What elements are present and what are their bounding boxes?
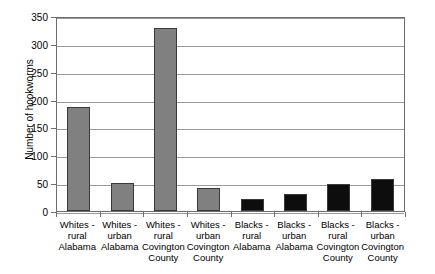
- bar-slot: [100, 18, 143, 211]
- bar-slot: [231, 18, 274, 211]
- x-axis-category-label: Blacks - urban Covington County: [360, 219, 405, 263]
- x-axis-category-label: Whites - urban Covington County: [186, 219, 231, 263]
- y-axis-tick-labels: 350300250200150100500: [0, 0, 56, 274]
- x-axis-tick: [143, 212, 144, 217]
- x-axis-tick: [318, 212, 319, 217]
- bar: [111, 183, 134, 211]
- plot-area: [56, 17, 405, 212]
- bar: [154, 28, 177, 211]
- y-axis-tick-label: 350: [31, 12, 48, 23]
- y-axis-tick-label: 50: [37, 179, 48, 190]
- y-axis-tick-label: 0: [42, 207, 48, 218]
- bar: [327, 184, 350, 211]
- y-axis-tick-label: 150: [31, 123, 48, 134]
- y-axis-tick-label: 250: [31, 67, 48, 78]
- y-axis-tick-label: 300: [31, 39, 48, 50]
- bar: [371, 179, 394, 211]
- bar: [67, 107, 90, 211]
- x-axis-tick: [231, 212, 232, 217]
- bar-chart: Number of hookworms 35030025020015010050…: [0, 0, 435, 274]
- x-axis-category-label: Blacks - rural Alabama: [231, 219, 273, 263]
- x-axis-tick: [100, 212, 101, 217]
- y-axis-tick-label: 100: [31, 151, 48, 162]
- bar-slot: [57, 18, 100, 211]
- y-axis-tick-label: 200: [31, 95, 48, 106]
- x-axis-tick: [405, 212, 406, 217]
- bar-slot: [187, 18, 230, 211]
- x-axis-category-label: Blacks - rural Covington County: [315, 219, 360, 263]
- bar-slot: [317, 18, 360, 211]
- bar-slot: [144, 18, 187, 211]
- x-axis-tick: [361, 212, 362, 217]
- bar-series: [57, 18, 404, 211]
- x-axis-tick: [187, 212, 188, 217]
- bar-slot: [361, 18, 404, 211]
- x-axis-tick: [274, 212, 275, 217]
- x-axis-category-label: Whites - urban Alabama: [98, 219, 140, 263]
- x-axis-category-label: Whites - rural Covington County: [141, 219, 186, 263]
- x-axis-category-label: Blacks - urban Alabama: [273, 219, 315, 263]
- bar-slot: [274, 18, 317, 211]
- x-axis-tick: [56, 212, 57, 217]
- x-axis-category-label: Whites - rural Alabama: [56, 219, 98, 263]
- x-axis-category-labels: Whites - rural AlabamaWhites - urban Ala…: [56, 219, 405, 263]
- bar: [284, 194, 307, 211]
- x-axis-ticks: [56, 212, 405, 217]
- bar: [241, 199, 264, 211]
- bar: [197, 188, 220, 211]
